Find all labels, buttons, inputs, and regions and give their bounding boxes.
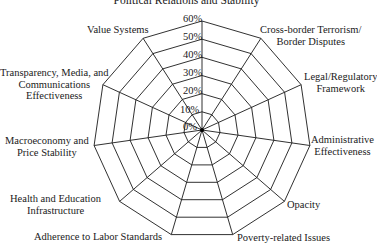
tick-label-50: 50% xyxy=(183,31,202,42)
center-point xyxy=(200,128,204,132)
tick-label-60: 60% xyxy=(183,13,202,24)
axis-label-political-relations: Political Relations and Stability xyxy=(0,0,373,6)
spoke-line xyxy=(202,130,284,201)
axis-label-legal-regulatory: Legal/Regulatory Framework xyxy=(304,71,377,94)
axis-label-health-education: Health and Education Infrastructure xyxy=(10,193,101,216)
tick-label-10: 10% xyxy=(180,104,199,115)
axis-label-labor-standards: Adherence to Labor Standards xyxy=(34,231,162,243)
axis-label-macroeconomy: Macroeconomy and Price Stability xyxy=(5,135,89,158)
tick-label-20: 20% xyxy=(183,85,202,96)
axis-label-poverty: Poverty-related Issues xyxy=(237,232,330,244)
axis-label-opacity: Opacity xyxy=(287,199,320,211)
axis-label-cross-border: Cross-border Terrorism/ Border Disputes xyxy=(260,24,361,47)
spoke-line xyxy=(94,130,202,146)
axis-label-value-systems: Value Systems xyxy=(87,24,149,36)
spoke-line xyxy=(202,130,310,146)
tick-label-30: 30% xyxy=(183,67,202,78)
spoke-line xyxy=(120,130,202,201)
axis-label-administrative: Administrative Effectiveness xyxy=(311,134,374,157)
axis-label-transparency: Transparency, Media, and Communications … xyxy=(0,67,109,102)
tick-label-40: 40% xyxy=(183,49,202,60)
tick-label-0: 0% xyxy=(183,121,197,132)
